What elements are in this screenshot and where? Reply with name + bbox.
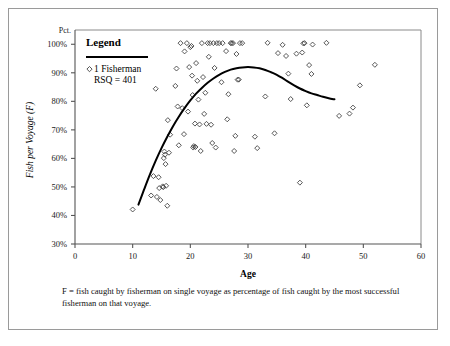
scatter-point bbox=[206, 54, 211, 59]
x-tick-label: 20 bbox=[186, 251, 195, 261]
scatter-point bbox=[226, 92, 231, 97]
scatter-point bbox=[181, 132, 186, 137]
scatter-point bbox=[233, 133, 238, 138]
scatter-point bbox=[176, 143, 181, 148]
figure-caption: F = fish caught by fisherman on single v… bbox=[62, 285, 407, 310]
scatter-point bbox=[178, 41, 183, 46]
x-tick-label: 0 bbox=[73, 251, 77, 261]
scatter-point bbox=[156, 175, 161, 180]
scatter-point bbox=[130, 207, 135, 212]
scatter-point bbox=[255, 146, 260, 151]
scatter-point bbox=[280, 42, 285, 47]
fitted-regression-curve bbox=[138, 67, 334, 205]
scatter-point bbox=[275, 51, 280, 56]
scatter-point bbox=[149, 193, 154, 198]
scatter-point bbox=[198, 148, 203, 153]
legend-rsq-label: RSQ = 401 bbox=[94, 75, 137, 85]
x-axis-ticks: 0102030405060 bbox=[73, 244, 425, 261]
scatter-point bbox=[304, 103, 309, 108]
scatter-point bbox=[225, 117, 230, 122]
plot-area-border bbox=[75, 30, 421, 244]
scatter-point bbox=[151, 174, 156, 179]
y-tick-label: 80% bbox=[51, 96, 67, 106]
figure-root: 30%40%50%60%70%80%90%100% 0102030405060 … bbox=[0, 0, 450, 346]
scatter-point bbox=[196, 97, 201, 102]
scatter-point-group bbox=[130, 40, 377, 212]
scatter-point bbox=[157, 186, 162, 191]
y-axis-unit-label: Pct. bbox=[59, 26, 71, 35]
scatter-point bbox=[184, 41, 189, 46]
scatter-point bbox=[212, 65, 217, 70]
scatter-point bbox=[252, 134, 257, 139]
scatter-point bbox=[372, 62, 377, 67]
scatter-point bbox=[202, 111, 207, 116]
scatter-point bbox=[288, 97, 293, 102]
scatter-point bbox=[163, 162, 168, 167]
legend-marker-sample bbox=[87, 67, 92, 72]
x-tick-label: 40 bbox=[301, 251, 310, 261]
x-axis-title: Age bbox=[240, 269, 256, 279]
scatter-point bbox=[204, 121, 209, 126]
scatter-point bbox=[286, 71, 291, 76]
scatter-point bbox=[272, 131, 277, 136]
scatter-point bbox=[232, 148, 237, 153]
legend-marker-label: 1 Fisherman bbox=[94, 64, 141, 74]
scatter-point bbox=[192, 121, 197, 126]
scatter-point bbox=[165, 203, 170, 208]
scatter-point bbox=[297, 180, 302, 185]
y-tick-label: 90% bbox=[51, 68, 67, 78]
x-tick-label: 10 bbox=[128, 251, 137, 261]
chart-axes bbox=[75, 30, 421, 244]
scatter-point bbox=[213, 145, 218, 150]
scatter-point bbox=[153, 86, 158, 91]
scatter-point bbox=[265, 40, 270, 45]
scatter-point bbox=[324, 40, 329, 45]
scatter-point bbox=[173, 83, 178, 88]
scatter-point bbox=[209, 122, 214, 127]
y-tick-label: 50% bbox=[51, 182, 67, 192]
scatter-point bbox=[187, 65, 192, 70]
scatter-point bbox=[220, 41, 225, 46]
y-tick-label: 30% bbox=[51, 239, 67, 249]
scatter-point bbox=[186, 109, 191, 114]
scatter-point bbox=[182, 49, 187, 54]
legend-title: Legend bbox=[86, 36, 121, 48]
x-tick-label: 50 bbox=[359, 251, 368, 261]
scatter-point bbox=[210, 140, 215, 145]
scatter-point bbox=[211, 41, 216, 46]
y-axis-ticks: 30%40%50%60%70%80%90%100% bbox=[47, 39, 75, 249]
scatter-point bbox=[263, 94, 268, 99]
scatter-point bbox=[234, 51, 239, 56]
y-tick-label: 100% bbox=[47, 39, 67, 49]
scatter-point bbox=[195, 78, 200, 83]
scatter-point bbox=[197, 122, 202, 127]
y-tick-label: 60% bbox=[51, 153, 67, 163]
scatter-point bbox=[203, 90, 208, 95]
y-tick-label: 70% bbox=[51, 125, 67, 135]
x-tick-label: 60 bbox=[417, 251, 426, 261]
y-tick-label: 40% bbox=[51, 210, 67, 220]
x-tick-label: 30 bbox=[244, 251, 253, 261]
scatter-point bbox=[190, 73, 195, 78]
scatter-point bbox=[307, 63, 312, 68]
chart-legend: Legend 1 Fisherman RSQ = 401 bbox=[86, 36, 148, 85]
scatter-point bbox=[174, 66, 179, 71]
scatter-point bbox=[310, 42, 315, 47]
scatter-point bbox=[219, 80, 224, 85]
scatter-point bbox=[357, 83, 362, 88]
scatter-point bbox=[201, 75, 206, 80]
scatter-point bbox=[347, 111, 352, 116]
scatter-point bbox=[199, 41, 204, 46]
scatter-point bbox=[224, 49, 229, 54]
scatter-point bbox=[309, 71, 314, 76]
scatter-point bbox=[300, 50, 305, 55]
scatter-point bbox=[165, 118, 170, 123]
scatter-point bbox=[284, 53, 289, 58]
scatter-point bbox=[294, 51, 299, 56]
scatter-point bbox=[337, 113, 342, 118]
scatter-point bbox=[194, 61, 199, 66]
y-axis-title: Fish per Voyage (F) bbox=[25, 102, 36, 179]
scatter-point bbox=[350, 105, 355, 110]
